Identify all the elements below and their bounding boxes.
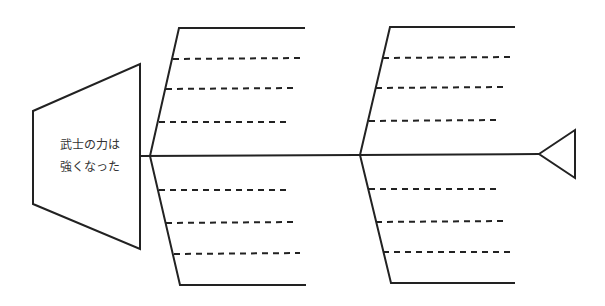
bone-right-upper [360,27,515,155]
bone-right-lower [360,155,515,283]
slot-right-lower-2[interactable] [376,221,503,222]
slot-left-upper-2[interactable] [166,88,294,89]
slot-left-upper-1[interactable] [173,58,300,59]
slot-left-lower-2[interactable] [166,222,294,223]
head-label-line2: 強くなった [40,157,140,178]
slot-left-lower-3[interactable] [174,253,300,254]
head-label-line1: 武士の力は [40,135,140,156]
bone-left-upper [150,28,305,156]
fish-tail-triangle [539,130,575,178]
spine [140,154,539,156]
slot-right-upper-3[interactable] [369,120,496,121]
slot-right-upper-2[interactable] [376,87,503,88]
bone-left-lower [150,156,306,285]
slot-right-upper-1[interactable] [383,57,510,58]
